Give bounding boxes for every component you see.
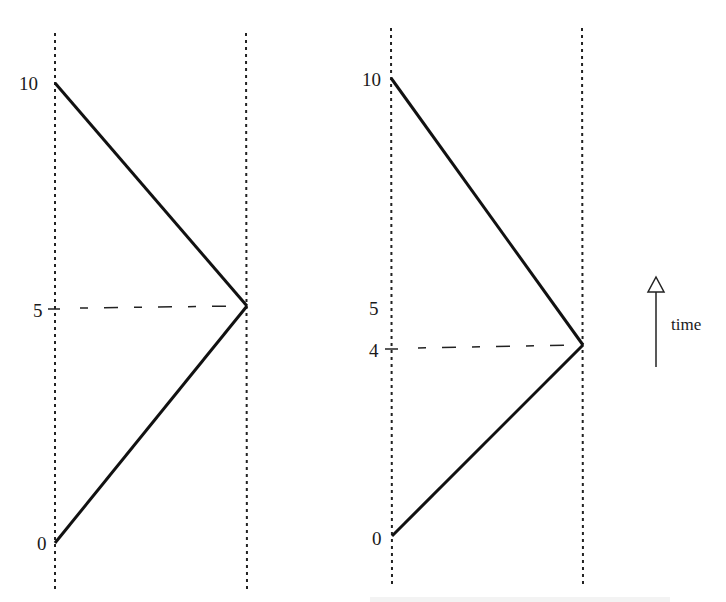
time-arrow: time	[648, 277, 701, 367]
right-panel-label-10: 10	[362, 69, 381, 90]
right-panel-label-5: 5	[369, 298, 379, 319]
left-panel-ascending-signal	[55, 306, 247, 543]
right-panel-label-4: 4	[369, 340, 379, 361]
right-panel-meet-dashed-line	[418, 345, 580, 348]
right-panel-descending-signal	[391, 78, 583, 345]
cropped-caption-fragment	[370, 597, 670, 602]
right-panel-label-0: 0	[372, 528, 382, 549]
left-panel-right-worldline	[246, 33, 247, 590]
left-panel-label-0: 0	[37, 533, 47, 554]
left-panel-meet-dashed-line	[80, 306, 242, 308]
left-panel: 10 5 0	[19, 33, 247, 590]
spacetime-diagram: 10 5 0 10 5 4 0 time	[0, 0, 726, 602]
left-panel-descending-signal	[55, 83, 247, 306]
left-panel-label-5: 5	[33, 300, 43, 321]
arrow-up-icon	[648, 277, 664, 292]
right-panel-right-worldline	[582, 28, 583, 584]
right-panel: 10 5 4 0	[362, 28, 583, 584]
time-label: time	[671, 315, 701, 334]
left-panel-label-10: 10	[19, 73, 38, 94]
right-panel-left-worldline	[391, 28, 392, 584]
right-panel-ascending-signal	[392, 345, 583, 536]
